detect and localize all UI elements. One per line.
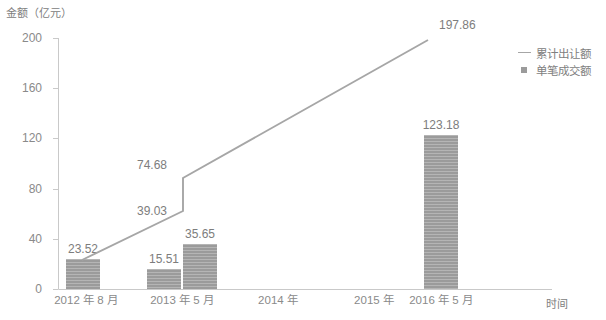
- legend-label-single-deal: 单笔成交额: [533, 62, 591, 78]
- x-axis-tick-2014: 2014 年: [230, 294, 326, 307]
- legend-square-icon: [515, 67, 533, 73]
- legend-line-icon: [515, 52, 533, 53]
- line-label-74-68: 74.68: [137, 159, 167, 172]
- x-axis-tick-2012-08: 2012 年 8 月: [38, 294, 134, 307]
- x-axis-tick-2016-05: 2016 年 5 月: [393, 294, 489, 307]
- line-label-39-03: 39.03: [137, 205, 167, 218]
- legend-item-cumulative[interactable]: 累计出让额: [515, 44, 591, 61]
- x-axis-title: 时间: [546, 295, 568, 311]
- x-axis-tick-2013-05: 2013 年 5 月: [134, 294, 230, 307]
- chart-canvas: 金额（亿元） 200 160 120 80 40 0 23.52 15.51 3…: [0, 0, 606, 320]
- line-label-197-86: 197.86: [439, 19, 476, 32]
- legend: 累计出让额 单笔成交额: [515, 44, 591, 78]
- legend-item-single-deal[interactable]: 单笔成交额: [515, 61, 591, 78]
- legend-label-cumulative: 累计出让额: [533, 45, 591, 61]
